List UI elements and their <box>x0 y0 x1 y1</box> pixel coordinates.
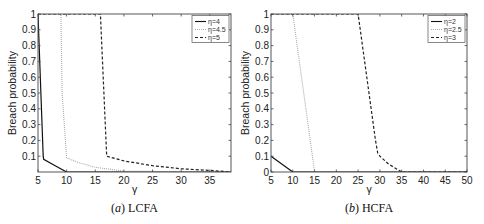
y-tick-label: 0.2 <box>255 135 269 146</box>
y-tick-label: 0.6 <box>22 72 36 83</box>
y-tick-label: 0.5 <box>22 88 36 99</box>
panel-caption: (a) LCFA <box>111 201 158 215</box>
x-tick-label: 50 <box>461 175 473 186</box>
x-tick-label: 25 <box>353 175 365 186</box>
legend-label: η=4 <box>208 18 220 26</box>
legend: η=2η=2.5η=3 <box>428 16 465 43</box>
y-tick-label: 0 <box>263 167 269 178</box>
y-tick-label: 0.9 <box>22 24 36 35</box>
y-tick-label: 0.5 <box>255 88 269 99</box>
y-tick-label: 0.3 <box>22 119 36 130</box>
x-tick-label: 30 <box>374 175 386 186</box>
x-tick-label: 10 <box>61 175 73 186</box>
y-axis-title: Breach probability <box>6 50 18 135</box>
legend-label: η=2 <box>444 18 456 26</box>
x-tick-label: 30 <box>176 175 188 186</box>
series-line <box>271 156 467 172</box>
y-axis-title: Breach probability <box>239 50 251 135</box>
legend-label: η=5 <box>208 34 220 42</box>
x-tick-label: 25 <box>147 175 159 186</box>
y-tick-label: 1 <box>263 9 269 20</box>
panel-hcfa: 510152025303540455000.10.20.30.40.50.60.… <box>239 9 473 216</box>
legend-label: η=3 <box>444 34 456 42</box>
y-tick-label: 0.6 <box>255 72 269 83</box>
x-tick-label: 15 <box>90 175 102 186</box>
y-tick-label: 0.7 <box>22 56 36 67</box>
y-tick-label: 0.7 <box>255 56 269 67</box>
y-tick-label: 0.1 <box>22 151 36 162</box>
x-tick-label: 20 <box>331 175 343 186</box>
y-tick-label: 0.9 <box>255 24 269 35</box>
x-tick-label: 20 <box>118 175 130 186</box>
panel-caption: (b) HCFA <box>345 201 393 215</box>
x-tick-label: 35 <box>204 175 216 186</box>
y-tick-label: 0.1 <box>255 151 269 162</box>
y-tick-label: 0.8 <box>255 40 269 51</box>
y-tick-label: 0.2 <box>22 135 36 146</box>
x-tick-label: 10 <box>287 175 299 186</box>
legend-label: η=2.5 <box>444 26 462 34</box>
x-axis-title: γ <box>366 183 372 195</box>
y-tick-label: 1 <box>30 9 36 20</box>
y-tick-label: 0.3 <box>255 119 269 130</box>
legend-label: η=4.5 <box>208 26 226 34</box>
legend: η=4η=4.5η=5 <box>192 16 229 43</box>
x-tick-label: 5 <box>268 175 274 186</box>
y-tick-label: 0.4 <box>255 103 269 114</box>
x-axis-title: γ <box>132 183 138 195</box>
x-tick-label: 45 <box>440 175 452 186</box>
y-tick-label: 0.8 <box>22 40 36 51</box>
x-tick-label: 5 <box>35 175 41 186</box>
x-tick-label: 15 <box>309 175 321 186</box>
x-tick-label: 40 <box>418 175 430 186</box>
x-tick-label: 35 <box>396 175 408 186</box>
figure: 51015202530350.10.20.30.40.50.60.70.80.9… <box>0 0 484 224</box>
y-tick-label: 0.4 <box>22 103 36 114</box>
panel-lcfa: 51015202530350.10.20.30.40.50.60.70.80.9… <box>6 9 231 216</box>
